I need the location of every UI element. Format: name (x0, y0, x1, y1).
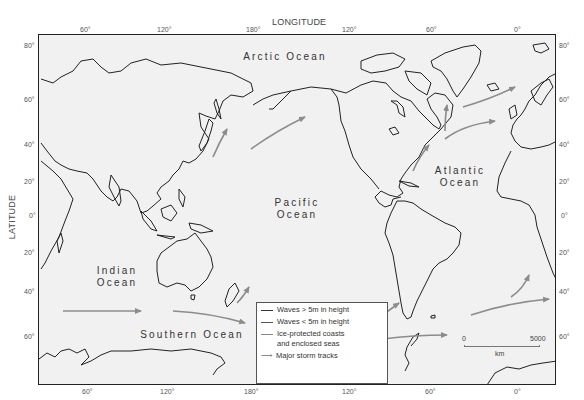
storm-track-nw-atlantic-2 (445, 121, 495, 139)
x-axis-title: LONGITUDE (272, 17, 326, 27)
right-tick-20n: 20° (559, 178, 570, 185)
right-tick-60n: 60° (559, 96, 570, 103)
y-axis-title: LATITUDE (7, 195, 17, 239)
bottom-tick-180: 180° (244, 388, 258, 395)
storm-track-ne-atlantic (463, 87, 515, 107)
right-tick-60s: 60° (559, 333, 570, 340)
legend-item-ice-protected: Ice-protected coasts and enclosed seas (261, 329, 383, 351)
storm-track-arrow-icon: ⟶ (261, 351, 272, 361)
top-tick-0: 0° (514, 26, 521, 33)
legend-label-line2: and enclosed seas (277, 339, 340, 348)
top-tick-60e: 60° (80, 26, 91, 33)
ocean-label-arctic: Arctic Ocean (225, 51, 345, 63)
madagascar (57, 233, 63, 253)
scale-bar-line (464, 345, 540, 347)
legend-label-line1: Ice-protected coasts (277, 329, 345, 338)
india-coast (109, 175, 121, 206)
antarctica-coast-west (39, 349, 225, 375)
west-africa-coast (497, 151, 556, 281)
bottom-tick-120e: 120° (160, 388, 174, 395)
ocean-label-indian-line2: Ocean (87, 277, 147, 289)
right-tick-40s: 40° (559, 288, 570, 295)
legend-line-swatch (261, 322, 273, 323)
legend-label: Waves > 5m in height (277, 305, 349, 315)
ocean-label-pacific-line2: Ocean (267, 209, 327, 221)
storm-track-s-pacific-1 (173, 311, 245, 323)
borneo (161, 205, 177, 221)
right-tick-20s: 20° (559, 249, 570, 256)
sumatra (141, 211, 157, 231)
top-tick-120e: 120° (157, 26, 171, 33)
new-guinea (189, 223, 213, 233)
legend-line-swatch (261, 334, 273, 335)
svalbard (533, 43, 549, 53)
left-tick-20s: 20° (24, 249, 35, 256)
right-tick-80n: 80° (559, 42, 570, 49)
ocean-label-atlantic-line1: Atlantic (425, 165, 495, 177)
storm-track-s-atlantic-1 (471, 299, 549, 315)
tasmania (191, 295, 195, 300)
legend-label-multiline: Ice-protected coasts and enclosed seas (277, 329, 345, 349)
left-tick-0: 0° (29, 212, 36, 219)
legend-label: Waves < 5m in height (277, 317, 349, 327)
bottom-tick-120w: 120° (342, 388, 356, 395)
storm-track-s-atlantic-2 (511, 275, 529, 297)
top-tick-120w: 120° (342, 26, 356, 33)
north-america-coast (253, 81, 453, 207)
south-america-coast (385, 201, 461, 319)
scale-bar-unit: km (495, 350, 504, 357)
british-isles (509, 105, 517, 119)
left-tick-40s: 40° (24, 288, 35, 295)
ocean-label-indian-line1: Indian (87, 265, 147, 277)
ocean-label-atlantic-line2: Ocean (425, 177, 495, 189)
scale-bar-start: 0 (462, 335, 466, 342)
new-zealand (225, 283, 239, 307)
bottom-tick-0: 0° (514, 388, 521, 395)
legend-item-storm-tracks: ⟶ Major storm tracks (261, 351, 383, 363)
west-coast-na (331, 89, 379, 189)
bottom-tick-60w: 60° (425, 388, 436, 395)
greenland-coast (431, 45, 481, 97)
left-tick-80n: 80° (24, 42, 35, 49)
scale-bar-end: 5000 (530, 335, 546, 342)
australia-coast (157, 233, 213, 291)
ocean-label-southern: Southern Ocean (127, 329, 257, 341)
storm-track-nw-pacific-1 (213, 129, 227, 157)
falklands (431, 315, 435, 318)
legend-item-waves-low: Waves < 5m in height (261, 317, 383, 329)
left-tick-40n: 40° (24, 141, 35, 148)
legend-label: Major storm tracks (276, 351, 338, 361)
africa-coast (41, 161, 73, 269)
left-tick-60s: 60° (24, 333, 35, 340)
right-tick-40n: 40° (559, 141, 570, 148)
antarctica-coast-east (487, 361, 556, 385)
left-tick-60n: 60° (24, 96, 35, 103)
great-lakes (389, 127, 399, 135)
storm-track-s-pacific-2 (237, 287, 249, 303)
top-tick-60w: 60° (426, 26, 437, 33)
bottom-tick-60e: 60° (82, 388, 93, 395)
storm-track-nw-atlantic-3 (445, 105, 447, 131)
legend-item-waves-high: Waves > 5m in height (261, 305, 383, 317)
philippines (179, 189, 185, 207)
europe-coast (511, 73, 556, 149)
baffin (405, 71, 431, 95)
legend-line-swatch (261, 310, 273, 311)
right-tick-0: 0° (561, 212, 568, 219)
antarctic-peninsula (405, 333, 419, 371)
ocean-label-pacific-line1: Pacific (267, 197, 327, 209)
top-tick-180: 180° (246, 26, 260, 33)
hudson-bay (391, 101, 405, 117)
iceland (487, 83, 499, 91)
storm-track-nw-pacific-2 (251, 117, 305, 149)
java (157, 235, 175, 239)
storm-track-drake-passage (383, 335, 447, 339)
cuba (399, 181, 419, 187)
eurasia-coast (41, 59, 253, 213)
scandinavia (531, 79, 553, 105)
map-legend: Waves > 5m in height Waves < 5m in heigh… (256, 302, 388, 384)
left-tick-20n: 20° (24, 178, 35, 185)
arctic-islands (361, 53, 405, 73)
